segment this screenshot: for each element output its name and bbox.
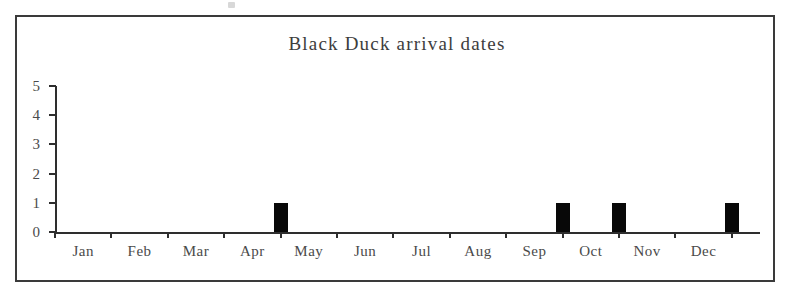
plot-area: 012345 JanFebMarAprMayJunJulAugSepOctNov… bbox=[55, 86, 760, 232]
chart-title: Black Duck arrival dates bbox=[17, 33, 777, 55]
chart-figure: Black Duck arrival dates 012345 JanFebMa… bbox=[0, 0, 786, 294]
x-axis-tick bbox=[392, 232, 394, 238]
x-axis-tick bbox=[110, 232, 112, 238]
x-axis-label-feb: Feb bbox=[128, 243, 152, 260]
bar-oct bbox=[612, 203, 626, 232]
y-axis-line bbox=[55, 86, 57, 232]
y-axis-tick-label: 1 bbox=[33, 195, 41, 210]
x-axis-label-sep: Sep bbox=[522, 243, 546, 260]
x-axis-tick bbox=[280, 232, 282, 238]
x-axis-tick bbox=[505, 232, 507, 238]
scan-artifact bbox=[228, 2, 235, 8]
x-axis-tick bbox=[223, 232, 225, 238]
x-axis-label-may: May bbox=[294, 243, 323, 260]
bar-apr bbox=[274, 203, 288, 232]
chart-frame: Black Duck arrival dates 012345 JanFebMa… bbox=[15, 15, 775, 282]
x-axis-tick bbox=[731, 232, 733, 238]
y-axis-tick: 5 bbox=[49, 85, 56, 87]
x-axis-tick bbox=[336, 232, 338, 238]
x-axis-label-nov: Nov bbox=[634, 243, 661, 260]
x-axis-label-jun: Jun bbox=[354, 243, 376, 260]
x-axis-label-oct: Oct bbox=[579, 243, 602, 260]
x-axis-line bbox=[55, 232, 760, 234]
y-axis-tick-label: 3 bbox=[33, 137, 41, 152]
x-axis-label-mar: Mar bbox=[183, 243, 210, 260]
x-axis-tick bbox=[562, 232, 564, 238]
y-axis-tick: 2 bbox=[49, 173, 56, 175]
y-axis-tick-label: 4 bbox=[33, 108, 41, 123]
bar-sep bbox=[556, 203, 570, 232]
y-axis-tick: 3 bbox=[49, 143, 56, 145]
x-axis-label-jan: Jan bbox=[72, 243, 94, 260]
x-axis-tick bbox=[449, 232, 451, 238]
x-axis-label-aug: Aug bbox=[464, 243, 491, 260]
x-axis-label-jul: Jul bbox=[412, 243, 431, 260]
x-axis-label-dec: Dec bbox=[691, 243, 717, 260]
x-axis-tick bbox=[618, 232, 620, 238]
y-axis-tick-label: 2 bbox=[33, 166, 41, 181]
bar-dec bbox=[725, 203, 739, 232]
x-axis-tick bbox=[167, 232, 169, 238]
y-axis-tick: 1 bbox=[49, 202, 56, 204]
x-axis-tick bbox=[674, 232, 676, 238]
x-axis-tick bbox=[54, 232, 56, 238]
y-axis-tick: 4 bbox=[49, 114, 56, 116]
x-axis-label-apr: Apr bbox=[240, 243, 265, 260]
y-axis-tick-label: 0 bbox=[33, 225, 41, 240]
y-axis-tick-label: 5 bbox=[33, 79, 41, 94]
